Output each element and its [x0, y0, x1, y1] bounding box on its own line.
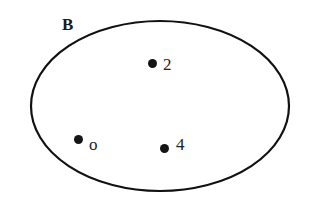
- venn-diagram-canvas: B 2 o 4: [0, 0, 315, 199]
- set-b-ellipse: [31, 21, 289, 191]
- member-label: 4: [176, 136, 185, 153]
- member-dot-icon: [148, 59, 157, 68]
- set-boundary-svg: [0, 0, 315, 199]
- set-label-b: B: [62, 16, 73, 33]
- member-label: 2: [163, 56, 172, 73]
- member-label: o: [89, 136, 98, 153]
- member-dot-icon: [160, 144, 169, 153]
- member-dot-icon: [74, 135, 83, 144]
